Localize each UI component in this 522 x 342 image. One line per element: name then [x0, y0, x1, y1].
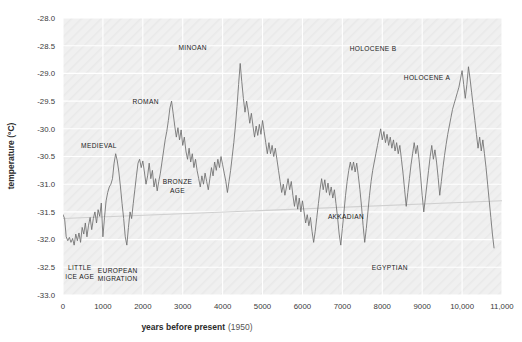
- annotation-label: HOLOCENE B: [350, 45, 397, 52]
- x-tick-label: 11,000: [490, 302, 514, 311]
- y-tick-label: -29.0: [37, 69, 55, 78]
- x-axis-title-bold: years before present: [141, 322, 225, 332]
- temperature-line-chart: -28.0-28.5-29.0-29.5-30.0-30.5-31.0-31.5…: [0, 0, 522, 342]
- x-tick-label: 3000: [174, 302, 192, 311]
- y-tick-label: -29.5: [37, 97, 55, 106]
- x-axis-title-light: (1950): [228, 322, 253, 332]
- x-tick-label: 1000: [94, 302, 112, 311]
- y-tick-label: -32.5: [37, 263, 55, 272]
- annotation-label: HOLOCENE A: [404, 74, 451, 81]
- y-tick-label: -30.5: [37, 152, 55, 161]
- x-tick-label: 9000: [414, 302, 432, 311]
- x-tick-label: 6000: [294, 302, 312, 311]
- x-tick-label: 0: [61, 302, 66, 311]
- x-tick-label: 2000: [134, 302, 152, 311]
- annotation-label: EGYPTIAN: [372, 264, 408, 271]
- y-tick-label: -28.0: [37, 14, 55, 23]
- annotation-label: MINOAN: [178, 44, 206, 51]
- y-tick-label: -33.0: [37, 291, 55, 300]
- annotation-label: ROMAN: [132, 98, 158, 105]
- chart-container: -28.0-28.5-29.0-29.5-30.0-30.5-31.0-31.5…: [0, 0, 522, 342]
- y-tick-label: -30.0: [37, 125, 55, 134]
- x-tick-label: 10,000: [450, 302, 475, 311]
- x-tick-label: 8000: [374, 302, 392, 311]
- annotation-label: AKKADIAN: [328, 213, 364, 220]
- y-axis-title: temperature (°C): [6, 122, 16, 189]
- annotation-label: EUROPEANMIGRATION: [98, 267, 138, 283]
- annotation-label: LITTLEICE AGE: [65, 264, 94, 280]
- annotation-label: MEDIEVAL: [81, 142, 117, 149]
- y-tick-label: -31.5: [37, 208, 55, 217]
- y-tick-label: -31.0: [37, 180, 55, 189]
- x-tick-label: 7000: [334, 302, 352, 311]
- y-tick-label: -28.5: [37, 42, 55, 51]
- y-tick-label: -32.0: [37, 235, 55, 244]
- x-tick-label: 5000: [254, 302, 272, 311]
- x-tick-label: 4000: [214, 302, 232, 311]
